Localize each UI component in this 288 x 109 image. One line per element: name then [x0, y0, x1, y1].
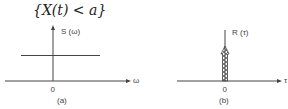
- title: {X(t) < a}: [33, 2, 106, 18]
- x-axis-label: ω: [133, 76, 139, 85]
- delta-impulse-arrow: [221, 46, 229, 81]
- x-axis-arrow-icon: [277, 79, 282, 83]
- x-axis-arrow-icon: [126, 79, 131, 83]
- panel-caption: (a): [57, 96, 67, 105]
- y-axis-arrow-icon: [51, 25, 55, 30]
- origin-label: 0: [51, 85, 56, 94]
- panel-b: R (τ) τ 0 (b): [177, 28, 288, 105]
- x-axis-label: τ: [284, 76, 288, 85]
- diagram-canvas: {X(t) < a} S (ω) ω 0 (a) R (τ) τ 0 (b): [0, 0, 288, 109]
- origin-label: 0: [223, 85, 228, 94]
- panel-caption: (b): [219, 96, 229, 105]
- y-axis-label: R (τ): [232, 28, 249, 37]
- y-axis-label: S (ω): [61, 27, 80, 36]
- panel-a: S (ω) ω 0 (a): [5, 25, 139, 105]
